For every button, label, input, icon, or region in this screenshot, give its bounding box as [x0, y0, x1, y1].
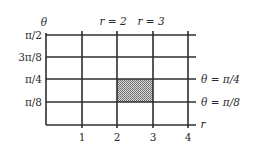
- theta-tick-label: π/8: [25, 96, 42, 108]
- r-tick-label: 1: [79, 131, 86, 143]
- theta-axis-label: θ: [41, 16, 48, 28]
- shaded-region: [117, 79, 153, 102]
- r-tick-label: 2: [114, 131, 121, 143]
- polar-grid-diagram: θ r π/2 3π/8 π/4 π/8 1 2 3 4 r = 2 r = 3…: [0, 0, 257, 151]
- theta-equals-pi-8-label: θ = π/8: [201, 96, 240, 108]
- r-equals-2-label: r = 2: [99, 15, 126, 27]
- r-axis-label: r: [200, 118, 206, 130]
- r-tick-label: 3: [150, 131, 157, 143]
- r-tick-label: 4: [185, 131, 192, 143]
- theta-tick-label: π/4: [25, 73, 42, 85]
- r-equals-3-label: r = 3: [137, 15, 164, 27]
- theta-tick-label: π/2: [25, 29, 42, 41]
- theta-tick-label: 3π/8: [18, 51, 42, 63]
- theta-equals-pi-4-label: θ = π/4: [201, 73, 240, 85]
